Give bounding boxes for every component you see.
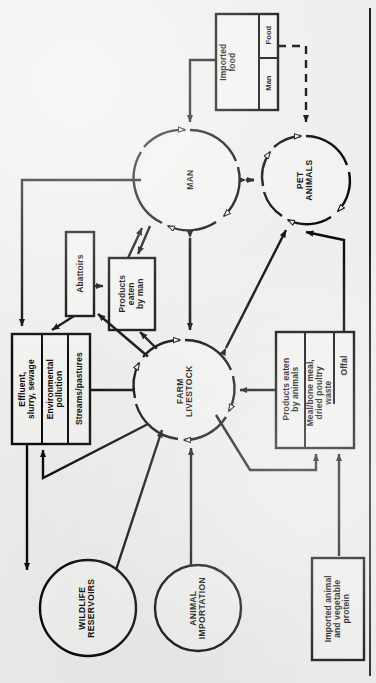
edge-farmlivestock-petanimals [226,230,286,348]
streams-pastures-wrap: Streams/pastures [46,368,112,410]
offal-wrap: Offal [318,348,372,384]
pet-animals-label-wrap: PET ANIMALS [281,158,331,202]
node-wildlife-reservoirs-label: WILDLIFE RESERVOIRS [79,578,97,637]
edge-products-to-man [128,228,142,258]
node-farm-livestock-label: FARM LIVESTOCK [176,365,194,417]
edge-offal-to-petanimals [306,232,344,332]
imported-food-compartment-food: Food [265,26,273,45]
products-eaten-by-man-wrap: Products eaten by man [108,272,156,316]
imported-food-label: Imported food [220,43,238,80]
abattoirs-label: Abattoirs [75,255,84,293]
imported-food-food-wrap: Food [244,18,294,52]
node-man-label: MAN [185,170,194,190]
edge-abattoirs-to-environment [52,316,74,330]
imported-food-compartment-man: Man [265,75,273,90]
products-eaten-by-man-label: Products eaten by man [118,275,146,313]
edge-wildlife-to-farmlivestock [116,430,162,570]
wildlife-reservoirs-label-wrap: WILDLIFE RESERVOIRS [63,584,113,632]
imported-protein-wrap: Imported animal and vegetable protein [305,588,371,630]
node-animal-importation-label: ANIMAL IMPORTATION [189,577,207,639]
node-pet-animals-label: PET ANIMALS [297,159,315,200]
abattoirs-label-wrap: Abattoirs [55,252,105,296]
farm-livestock-label-wrap: FARM LIVESTOCK [160,368,210,414]
animal-importation-label-wrap: ANIMAL IMPORTATION [173,584,223,632]
animal-feed-compartment-offal: Offal [340,356,349,376]
diagram-canvas: Imported food Food Man MAN PET ANIMALS A… [0,0,376,683]
environment-compartment-streams: Streams/pastures [74,353,83,426]
imported-food-man-wrap: Man [244,66,294,100]
man-label-wrap: MAN [165,160,215,200]
imported-protein-label: Imported animal and vegetable protein [324,575,352,642]
